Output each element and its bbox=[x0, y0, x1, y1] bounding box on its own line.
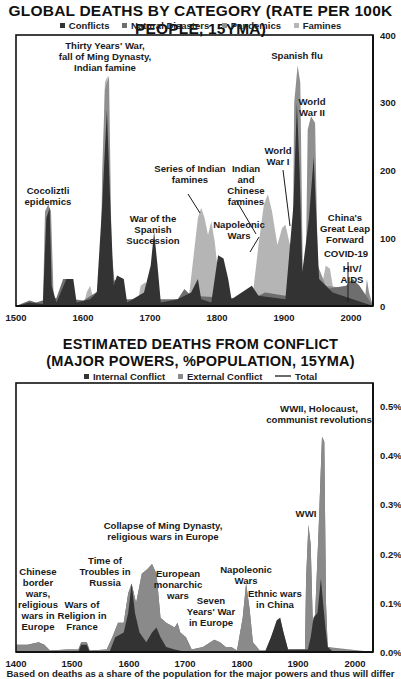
annotation-label: NapoleonicWars bbox=[213, 219, 265, 241]
y-tick-label: 0.1% bbox=[380, 598, 401, 609]
annotation-leader-line bbox=[250, 237, 259, 252]
annotation-label: Cocoliztliepidemics bbox=[25, 185, 72, 207]
y-tick-label: 0.3% bbox=[380, 499, 401, 510]
y-tick-label: 300 bbox=[380, 97, 396, 108]
annotation-label: China'sGreat LeapForward bbox=[320, 212, 370, 245]
annotation-leader-line bbox=[283, 170, 290, 226]
x-tick-label: 2000 bbox=[340, 312, 361, 323]
y-tick-label: 0 bbox=[380, 301, 385, 312]
annotation-label: WorldWar I bbox=[264, 145, 291, 167]
annotation-label: HIV/AIDS bbox=[341, 263, 365, 285]
annotation-label: Thirty Years' War,fall of Ming Dynasty,I… bbox=[59, 40, 152, 73]
y-tick-label: 100 bbox=[380, 233, 396, 244]
annotation-label: NapoleonicWars bbox=[220, 564, 272, 586]
footnote: Based on deaths as a share of the popula… bbox=[0, 667, 401, 679]
annotation-label: WWII, Holocaust,communist revolutions bbox=[266, 403, 372, 425]
annotation-label: COVID-19 bbox=[324, 248, 368, 259]
annotation-label: Chineseborderwars,religiouswars inEurope bbox=[18, 566, 58, 632]
charts-canvas: 4003002001000150016001700180019002000 Th… bbox=[0, 0, 401, 679]
annotation-label: War of theSpanishSuccession bbox=[126, 213, 179, 246]
x-tick-label: 1600 bbox=[72, 312, 93, 323]
y-tick-label: 400 bbox=[380, 30, 396, 41]
y-tick-label: 0.5% bbox=[380, 401, 401, 412]
annotation-leader-line bbox=[188, 194, 200, 213]
y-tick-label: 0.2% bbox=[380, 549, 401, 560]
annotation-label: Time ofTroubles inRussia bbox=[79, 555, 130, 588]
y-tick-label: 0.0% bbox=[380, 647, 401, 658]
annotation-label: Series of Indianfamines bbox=[154, 163, 226, 185]
annotation-label: Spanish flu bbox=[271, 50, 323, 61]
annotation-label: IndianandChinesefamines bbox=[227, 163, 264, 207]
y-tick-label: 0.4% bbox=[380, 450, 401, 461]
annotation-label: WorldWar II bbox=[298, 96, 325, 118]
x-tick-label: 1500 bbox=[5, 312, 26, 323]
annotation-label: Collapse of Ming Dynasty,religious wars … bbox=[104, 520, 223, 542]
annotation-label: Ethnic warsin China bbox=[248, 588, 302, 610]
annotation-label: Europeanmonarchicwars bbox=[154, 568, 203, 601]
annotation-label: Wars ofReligion inFrance bbox=[57, 599, 106, 632]
annotation-label: SevenYears' Warin Europe bbox=[187, 595, 236, 628]
annotation-label: WWI bbox=[296, 508, 317, 519]
x-tick-label: 1800 bbox=[206, 312, 227, 323]
y-tick-label: 200 bbox=[380, 165, 396, 176]
x-tick-label: 1900 bbox=[273, 312, 294, 323]
x-tick-label: 1700 bbox=[139, 312, 160, 323]
